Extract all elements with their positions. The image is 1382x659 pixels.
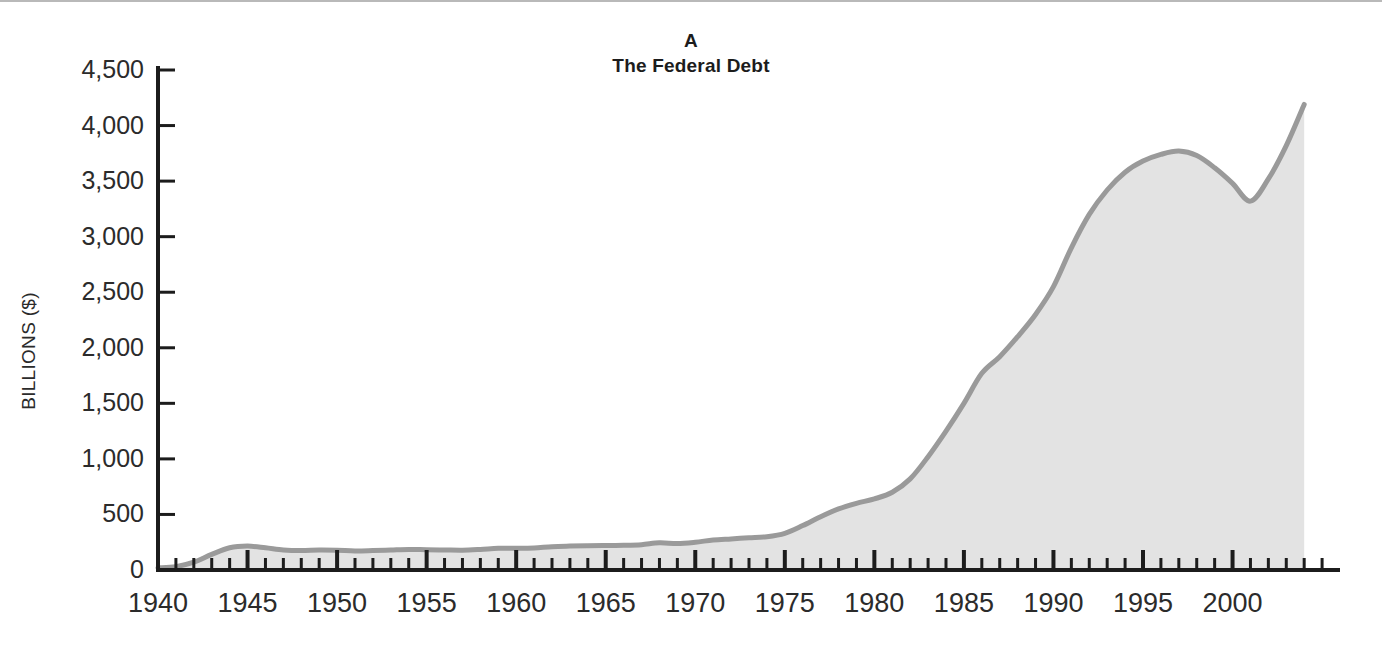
x-tick-label: 1975 — [755, 588, 815, 618]
x-tick-label: 1970 — [665, 588, 725, 618]
area-chart-plot: 05001,0001,5002,0002,5003,0003,5004,0004… — [0, 0, 1382, 659]
y-tick-label: 4,000 — [81, 111, 144, 139]
y-axis-ticks — [158, 70, 175, 514]
x-axis-tick-labels: 1940194519501955196019651970197519801985… — [128, 588, 1263, 618]
y-tick-label: 0 — [130, 555, 144, 583]
x-tick-label: 1985 — [934, 588, 994, 618]
x-tick-label: 1940 — [128, 588, 188, 618]
x-tick-label: 1960 — [486, 588, 546, 618]
x-tick-label: 1995 — [1113, 588, 1173, 618]
y-tick-label: 3,000 — [81, 222, 144, 250]
x-tick-label: 1950 — [307, 588, 367, 618]
x-tick-label: 1980 — [844, 588, 904, 618]
x-tick-label: 2000 — [1203, 588, 1263, 618]
y-tick-label: 1,000 — [81, 444, 144, 472]
y-tick-label: 500 — [102, 499, 144, 527]
x-tick-label: 1990 — [1023, 588, 1083, 618]
y-tick-label: 2,500 — [81, 277, 144, 305]
y-tick-label: 1,500 — [81, 388, 144, 416]
x-tick-label: 1945 — [218, 588, 278, 618]
x-tick-label: 1965 — [576, 588, 636, 618]
y-tick-label: 2,000 — [81, 333, 144, 361]
y-tick-label: 3,500 — [81, 166, 144, 194]
series-fill-area — [158, 104, 1304, 570]
y-tick-label: 4,500 — [81, 55, 144, 83]
figure-panel-a: A The Federal Debt BILLIONS ($) 05001,00… — [0, 0, 1382, 659]
x-tick-label: 1955 — [397, 588, 457, 618]
y-axis-tick-labels: 05001,0001,5002,0002,5003,0003,5004,0004… — [81, 55, 144, 583]
